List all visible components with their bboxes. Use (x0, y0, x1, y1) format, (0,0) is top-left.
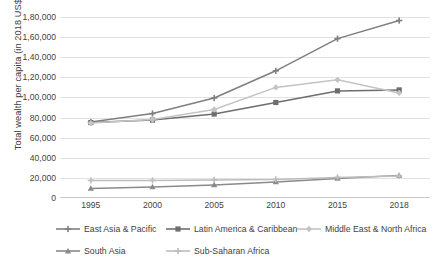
data-point-plus-marker (396, 173, 402, 179)
legend-item-east-asia-pacific[interactable]: East Asia & Pacific (55, 220, 156, 238)
data-point-plus-marker (273, 68, 279, 74)
legend-row: East Asia & PacificLatin America & Carib… (0, 220, 437, 242)
x-axis-tick-label: 2010 (266, 200, 285, 210)
legend-swatch-icon (165, 223, 191, 235)
data-point-plus-marker (334, 36, 340, 42)
data-point-diamond-marker (306, 226, 312, 232)
data-point-diamond-marker (273, 84, 279, 90)
legend-label: Middle East & North Africa (325, 225, 426, 234)
data-point-plus-marker (149, 177, 155, 183)
x-axis-tick-label: 2000 (143, 200, 162, 210)
data-point-plus-marker (211, 177, 217, 183)
series-line (91, 90, 399, 123)
y-axis-tick-label: 20,000 (2, 173, 56, 183)
series-line (91, 80, 399, 123)
legend-row: South AsiaSub-Saharan Africa (0, 242, 437, 264)
series-south-asia (88, 172, 403, 191)
legend-label: Sub-Saharan Africa (194, 247, 269, 256)
legend-swatch-icon (296, 223, 322, 235)
y-axis-tick-label: 1,20,000 (2, 72, 56, 82)
data-point-plus-marker (88, 177, 94, 183)
legend-label: Latin America & Caribbean (194, 225, 297, 234)
y-axis-tick-label: 1,40,000 (2, 52, 56, 62)
legend-swatch-icon (165, 245, 191, 257)
x-axis-tick-label: 1995 (81, 200, 100, 210)
series-line (91, 21, 399, 123)
data-point-plus-marker (396, 17, 402, 23)
x-axis-tick-labels: 199520002005201020152018 (60, 200, 430, 216)
series-layer (60, 17, 430, 198)
legend-label: South Asia (84, 247, 126, 256)
data-point-square-marker (335, 88, 340, 93)
series-latin-america-caribbean (88, 87, 402, 125)
y-axis-tick-label: 1,00,000 (2, 92, 56, 102)
y-axis-tick-label: 80,000 (2, 113, 56, 123)
data-point-plus-marker (175, 248, 181, 254)
x-axis-tick-label: 2018 (390, 200, 409, 210)
chart-legend: East Asia & PacificLatin America & Carib… (0, 220, 437, 268)
data-point-plus-marker (149, 110, 155, 116)
x-axis-tick-label: 2015 (328, 200, 347, 210)
data-point-plus-marker (65, 226, 71, 232)
legend-item-latin-america-caribbean[interactable]: Latin America & Caribbean (165, 220, 297, 238)
legend-item-middle-east-north-africa[interactable]: Middle East & North Africa (296, 220, 426, 238)
legend-swatch-icon (55, 245, 81, 257)
y-axis-tick-label: 1,60,000 (2, 32, 56, 42)
data-point-plus-marker (211, 95, 217, 101)
y-axis-tick-label: 1,80,000 (2, 12, 56, 22)
y-axis-tick-label: 0 (2, 193, 56, 203)
legend-label: East Asia & Pacific (84, 225, 156, 234)
data-point-square-marker (273, 100, 278, 105)
legend-item-south-asia[interactable]: South Asia (55, 242, 126, 260)
plot-area (60, 17, 430, 198)
data-point-diamond-marker (334, 77, 340, 83)
legend-swatch-icon (55, 223, 81, 235)
y-axis-tick-label: 40,000 (2, 153, 56, 163)
data-point-square-marker (175, 226, 180, 231)
y-axis-tick-label: 60,000 (2, 133, 56, 143)
wealth-per-capita-line-chart: Total wealth per capita (in 2018 US$) 02… (0, 0, 437, 268)
x-axis-tick-label: 2005 (205, 200, 224, 210)
y-axis-tick-labels: 020,00040,00060,00080,0001,00,0001,20,00… (0, 17, 56, 198)
legend-item-sub-saharan-africa[interactable]: Sub-Saharan Africa (165, 242, 269, 260)
